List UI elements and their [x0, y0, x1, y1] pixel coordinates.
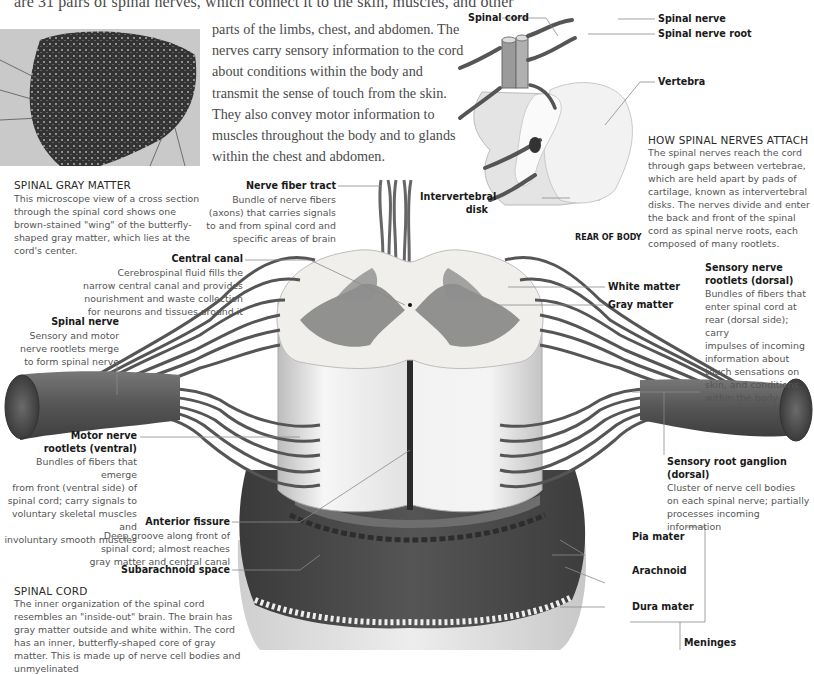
label-pia-mater: Pia mater	[632, 531, 684, 544]
label-sensory-nerve-rootlets: Sensory nerve rootlets (dorsal) Bundles …	[705, 262, 814, 404]
attach-text: The spinal nerves reach the cord through…	[648, 146, 814, 250]
label-nerve-fiber-tract: Nerve fiber tract Bundle of nerve fibers…	[150, 180, 336, 245]
label-desc: Sensory and motornerve rootlets mergeto …	[14, 329, 119, 368]
spinal-cord-caption-box: SPINAL CORD The inner organization of th…	[14, 585, 244, 675]
label-white-matter: White matter	[608, 281, 680, 294]
label-meninges: Meninges	[684, 637, 736, 650]
label-title: Nerve fiber tract	[150, 180, 336, 193]
label-line: Intervertebral	[420, 191, 488, 204]
label-title: rootlets (dorsal)	[705, 275, 814, 288]
label-subarachnoid-space: Subarachnoid space	[80, 564, 230, 577]
intro-paragraph: parts of the limbs, chest, and abdomen. …	[212, 19, 472, 167]
label-sensory-root-ganglion: Sensory root ganglion (dorsal) Cluster o…	[667, 456, 814, 533]
label-title: (dorsal)	[667, 469, 814, 482]
label-desc: Bundles of fibers thatenter spinal cord …	[705, 287, 814, 404]
label-central-canal: Central canal Cerebrospinal fluid fills …	[50, 253, 243, 318]
label-title: rootlets (ventral)	[0, 443, 137, 456]
label-dura-mater: Dura mater	[632, 601, 694, 614]
label-inset-spinal-nerve-root: Spinal nerve root	[658, 28, 752, 41]
label-line: disk	[420, 204, 488, 217]
attach-heading: HOW SPINAL NERVES ATTACH	[648, 134, 814, 146]
label-anterior-fissure: Anterior fissure Deep groove along front…	[60, 516, 230, 568]
label-arachnoid: Arachnoid	[632, 565, 687, 578]
spinal-cord-heading: SPINAL CORD	[14, 585, 244, 597]
label-gray-matter: Gray matter	[608, 299, 673, 312]
label-title: Sensory root ganglion	[667, 456, 814, 469]
label-desc: Cerebrospinal fluid fills thenarrow cent…	[50, 266, 243, 318]
spinal-cord-text: The inner organization of the spinal cor…	[14, 597, 244, 675]
cross-section	[277, 250, 543, 369]
intro-first-line: are 31 pairs of spinal nerves, which con…	[14, 0, 514, 11]
label-spinal-nerve: Spinal nerve Sensory and motornerve root…	[14, 316, 119, 368]
label-inset-spinal-cord: Spinal cord	[468, 12, 529, 25]
vertebra-inset	[460, 20, 632, 205]
label-rear-of-body: REAR OF BODY	[575, 232, 642, 245]
microscope-image	[0, 29, 200, 166]
label-title: Spinal nerve	[14, 316, 119, 329]
label-desc: Deep groove along front ofspinal cord; a…	[60, 529, 230, 568]
label-title: Anterior fissure	[60, 516, 230, 529]
label-inset-vertebra: Vertebra	[658, 76, 705, 89]
label-desc: Bundle of nerve fibers(axons) that carri…	[150, 193, 336, 245]
label-inset-intervertebral-disk: Intervertebral disk	[420, 191, 488, 216]
label-title: Central canal	[50, 253, 243, 266]
label-title: Sensory nerve	[705, 262, 814, 275]
attach-caption-box: HOW SPINAL NERVES ATTACH The spinal nerv…	[648, 134, 814, 250]
label-inset-spinal-nerve: Spinal nerve	[658, 13, 726, 26]
label-title: Motor nerve	[0, 430, 137, 443]
label-desc: Cluster of nerve cell bodieson each spin…	[667, 481, 814, 533]
